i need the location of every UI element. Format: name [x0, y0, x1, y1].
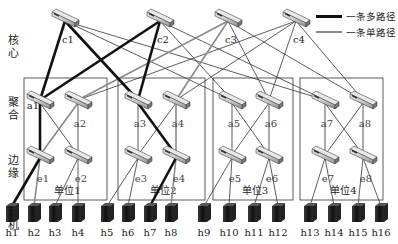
node-label-e6: e6 — [266, 173, 278, 184]
host-h4: h4 — [72, 203, 85, 238]
switch-a8: a8 — [350, 91, 377, 129]
node-label-h11: h11 — [244, 227, 263, 238]
switch-e6: e6 — [256, 146, 283, 184]
switch-e3: e3 — [125, 146, 152, 184]
node-label-h14: h14 — [324, 227, 343, 238]
server-icon — [122, 203, 135, 222]
switch-a5: a5 — [219, 91, 246, 129]
server-icon — [72, 203, 85, 222]
link-c3-a4-single — [176, 21, 228, 100]
server-icon — [248, 203, 261, 222]
host-h13: h13 — [300, 203, 319, 238]
switch-icon — [125, 146, 152, 164]
pod-label: 单位3 — [242, 184, 268, 196]
switch-icon — [350, 146, 377, 164]
node-label-h2: h2 — [28, 227, 41, 238]
host-h11: h11 — [244, 203, 263, 238]
switch-e4: e4 — [163, 146, 190, 184]
node-label-e5: e5 — [229, 173, 241, 184]
node-label-h6: h6 — [122, 227, 135, 238]
switch-e5: e5 — [219, 146, 246, 184]
node-label-c3: c3 — [225, 34, 237, 45]
server-icon — [328, 203, 341, 222]
layer-label-host: 主机 — [6, 206, 20, 232]
node-label-c1: c1 — [62, 34, 74, 45]
node-label-e8: e8 — [360, 173, 372, 184]
node-label-h16: h16 — [371, 227, 390, 238]
node-label-a3: a3 — [134, 118, 146, 129]
host-h2: h2 — [28, 203, 41, 238]
node-label-h9: h9 — [198, 227, 211, 238]
server-icon — [198, 203, 211, 222]
host-h8: h8 — [165, 203, 178, 238]
node-label-h5: h5 — [101, 227, 114, 238]
pod-label: 单位4 — [330, 184, 356, 196]
host-h9: h9 — [198, 203, 211, 238]
server-icon — [28, 203, 41, 222]
legend-single-path-label: 一条单路径 — [346, 25, 396, 39]
switch-icon — [215, 9, 242, 27]
legend-multi-path: 一条多路径 — [316, 8, 396, 24]
node-label-c4: c4 — [293, 34, 305, 45]
layer-label-edge: 边缘 — [6, 154, 20, 180]
host-h6: h6 — [122, 203, 135, 238]
host-h14: h14 — [324, 203, 343, 238]
switch-icon — [219, 146, 246, 164]
node-label-a5: a5 — [228, 118, 240, 129]
host-h7: h7 — [144, 203, 157, 238]
node-label-e2: e2 — [75, 173, 87, 184]
server-icon — [101, 203, 114, 222]
host-h15: h15 — [348, 203, 367, 238]
legend-single-path: 一条单路径 — [316, 24, 396, 40]
node-label-a7: a7 — [321, 118, 333, 129]
switch-icon — [65, 91, 92, 109]
host-h5: h5 — [101, 203, 114, 238]
server-icon — [49, 203, 62, 222]
node-label-h13: h13 — [300, 227, 319, 238]
switch-icon — [219, 91, 246, 109]
node-label-e4: e4 — [173, 173, 185, 184]
node-label-e7: e7 — [322, 173, 334, 184]
switch-e2: e2 — [65, 146, 92, 184]
node-label-e1: e1 — [37, 173, 49, 184]
switch-icon — [52, 9, 79, 27]
link-c2-a5-normal — [160, 21, 232, 100]
link-c4-a6-normal — [269, 21, 296, 100]
node-label-a2: a2 — [74, 118, 86, 129]
node-label-a1: a1 — [27, 100, 39, 111]
switch-a6: a6 — [256, 91, 283, 129]
layer-label-core: 核心 — [6, 34, 20, 60]
single-path-line-icon — [316, 31, 342, 33]
switch-c1: c1 — [52, 9, 79, 45]
node-label-h3: h3 — [49, 227, 62, 238]
host-h12: h12 — [268, 203, 287, 238]
switch-e8: e8 — [350, 146, 377, 184]
node-label-h8: h8 — [165, 227, 178, 238]
multi-path-line-icon — [316, 15, 342, 18]
switch-e1: e1 — [27, 146, 54, 184]
link-e5-h9-normal — [204, 158, 232, 206]
link-c1-a7-normal — [65, 21, 325, 100]
node-label-h10: h10 — [219, 227, 238, 238]
node-label-h12: h12 — [268, 227, 287, 238]
switch-icon — [147, 9, 174, 27]
link-c1-a1-multi — [40, 21, 65, 100]
switch-a7: a7 — [312, 91, 339, 129]
host-h10: h10 — [219, 203, 238, 238]
legend: 一条多路径 一条单路径 — [316, 8, 396, 40]
switch-e7: e7 — [312, 146, 339, 184]
switch-a3: a3 — [125, 91, 152, 129]
switch-icon — [312, 91, 339, 109]
node-label-a4: a4 — [172, 118, 184, 129]
host-h16: h16 — [371, 203, 390, 238]
legend-multi-path-label: 一条多路径 — [346, 9, 396, 23]
server-icon — [352, 203, 365, 222]
node-label-e3: e3 — [135, 173, 147, 184]
node-label-a6: a6 — [265, 118, 277, 129]
server-icon — [304, 203, 317, 222]
node-label-h4: h4 — [72, 227, 85, 238]
switch-icon — [350, 91, 377, 109]
node-label-c2: c2 — [157, 34, 169, 45]
switch-icon — [256, 91, 283, 109]
layer-label-aggregation: 聚合 — [6, 96, 20, 122]
